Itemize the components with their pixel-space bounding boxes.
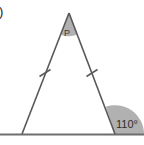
- geometry-diagram: P 110° ): [0, 0, 144, 145]
- geometry-figure-canvas: P 110° ): [0, 0, 144, 145]
- item-number-label: ): [0, 4, 3, 19]
- exterior-angle-label: 110°: [116, 118, 138, 130]
- apex-angle-label: P: [64, 28, 70, 38]
